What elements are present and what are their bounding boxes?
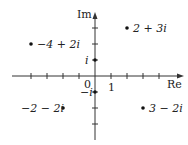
- svg-text:−2 − 2i: −2 − 2i: [21, 102, 64, 115]
- svg-text:−i: −i: [80, 86, 93, 99]
- point-neg4-plus-2i: −4 + 2i: [29, 38, 80, 51]
- unit-label: 1: [108, 81, 115, 94]
- svg-text:−4 + 2i: −4 + 2i: [37, 38, 80, 51]
- imaginary-axis-arrow-icon: [93, 12, 98, 19]
- svg-text:i: i: [85, 54, 89, 67]
- point-2-plus-3i: 2 + 3i: [125, 22, 167, 35]
- point-neg-i: −i: [80, 86, 97, 99]
- real-axis-label: Re: [167, 78, 182, 91]
- complex-plane-diagram: Im Re 0 1 2 + 3i −4 + 2i i −i −2 − 2i 3 …: [0, 0, 188, 145]
- point-neg2-minus-2i: −2 − 2i: [21, 102, 65, 115]
- svg-text:2 + 3i: 2 + 3i: [132, 22, 167, 35]
- svg-text:3 − 2i: 3 − 2i: [149, 102, 183, 115]
- point-3-minus-2i: 3 − 2i: [141, 102, 183, 115]
- imaginary-axis-label: Im: [77, 8, 92, 21]
